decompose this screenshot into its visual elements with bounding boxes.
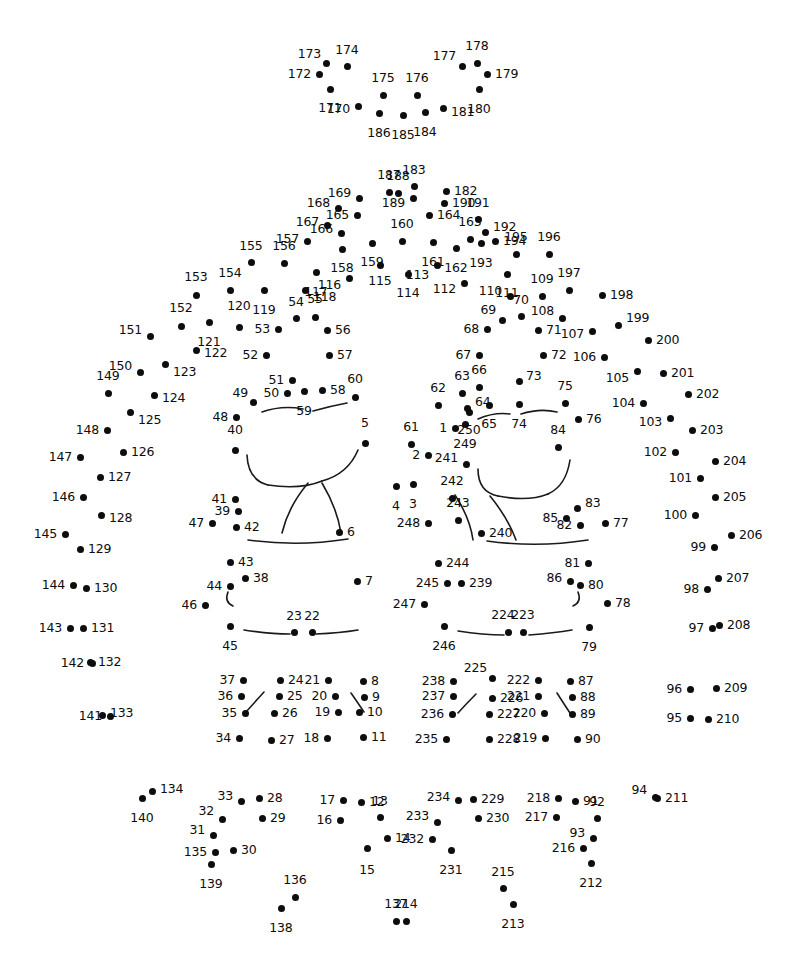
puzzle-dot[interactable] xyxy=(227,559,234,566)
puzzle-dot[interactable] xyxy=(687,715,694,722)
puzzle-dot[interactable] xyxy=(441,200,448,207)
puzzle-dot[interactable] xyxy=(70,582,77,589)
puzzle-dot[interactable] xyxy=(425,520,432,527)
puzzle-dot[interactable] xyxy=(346,275,353,282)
puzzle-dot[interactable] xyxy=(444,580,451,587)
puzzle-dot[interactable] xyxy=(98,512,105,519)
puzzle-dot[interactable] xyxy=(313,269,320,276)
puzzle-dot[interactable] xyxy=(459,63,466,70)
puzzle-dot[interactable] xyxy=(692,512,699,519)
puzzle-dot[interactable] xyxy=(238,693,245,700)
puzzle-dot[interactable] xyxy=(77,546,84,553)
puzzle-dot[interactable] xyxy=(336,529,343,536)
puzzle-dot[interactable] xyxy=(127,409,134,416)
puzzle-dot[interactable] xyxy=(440,105,447,112)
puzzle-dot[interactable] xyxy=(634,368,641,375)
puzzle-dot[interactable] xyxy=(476,86,483,93)
puzzle-dot[interactable] xyxy=(410,195,417,202)
puzzle-dot[interactable] xyxy=(535,693,542,700)
puzzle-dot[interactable] xyxy=(425,452,432,459)
puzzle-dot[interactable] xyxy=(289,377,296,384)
puzzle-dot[interactable] xyxy=(325,677,332,684)
puzzle-dot[interactable] xyxy=(435,560,442,567)
puzzle-dot[interactable] xyxy=(430,239,437,246)
puzzle-dot[interactable] xyxy=(574,505,581,512)
puzzle-dot[interactable] xyxy=(448,847,455,854)
puzzle-dot[interactable] xyxy=(332,693,339,700)
puzzle-dot[interactable] xyxy=(450,693,457,700)
puzzle-dot[interactable] xyxy=(139,795,146,802)
puzzle-dot[interactable] xyxy=(687,686,694,693)
puzzle-dot[interactable] xyxy=(645,337,652,344)
puzzle-dot[interactable] xyxy=(640,400,647,407)
puzzle-dot[interactable] xyxy=(569,711,576,718)
puzzle-dot[interactable] xyxy=(705,716,712,723)
puzzle-dot[interactable] xyxy=(470,796,477,803)
puzzle-dot[interactable] xyxy=(301,388,308,395)
puzzle-dot[interactable] xyxy=(542,735,549,742)
puzzle-dot[interactable] xyxy=(364,845,371,852)
puzzle-dot[interactable] xyxy=(504,271,511,278)
puzzle-dot[interactable] xyxy=(604,600,611,607)
puzzle-dot[interactable] xyxy=(443,188,450,195)
puzzle-dot[interactable] xyxy=(210,832,217,839)
puzzle-dot[interactable] xyxy=(151,392,158,399)
puzzle-dot[interactable] xyxy=(715,575,722,582)
puzzle-dot[interactable] xyxy=(555,795,562,802)
puzzle-dot[interactable] xyxy=(80,625,87,632)
puzzle-dot[interactable] xyxy=(601,354,608,361)
puzzle-dot[interactable] xyxy=(362,440,369,447)
puzzle-dot[interactable] xyxy=(482,229,489,236)
puzzle-dot[interactable] xyxy=(463,461,470,468)
puzzle-dot[interactable] xyxy=(660,370,667,377)
puzzle-dot[interactable] xyxy=(261,287,268,294)
puzzle-dot[interactable] xyxy=(62,531,69,538)
puzzle-dot[interactable] xyxy=(499,317,506,324)
puzzle-dot[interactable] xyxy=(441,623,448,630)
puzzle-dot[interactable] xyxy=(476,352,483,359)
puzzle-dot[interactable] xyxy=(219,816,226,823)
puzzle-dot[interactable] xyxy=(227,287,234,294)
puzzle-dot[interactable] xyxy=(458,580,465,587)
puzzle-dot[interactable] xyxy=(712,458,719,465)
puzzle-dot[interactable] xyxy=(235,508,242,515)
puzzle-dot[interactable] xyxy=(450,678,457,685)
puzzle-dot[interactable] xyxy=(414,92,421,99)
puzzle-dot[interactable] xyxy=(422,109,429,116)
puzzle-dot[interactable] xyxy=(672,449,679,456)
puzzle-dot[interactable] xyxy=(461,280,468,287)
puzzle-dot[interactable] xyxy=(712,494,719,501)
puzzle-dot[interactable] xyxy=(354,578,361,585)
puzzle-dot[interactable] xyxy=(120,449,127,456)
puzzle-dot[interactable] xyxy=(516,378,523,385)
puzzle-dot[interactable] xyxy=(478,530,485,537)
puzzle-dot[interactable] xyxy=(227,583,234,590)
puzzle-dot[interactable] xyxy=(281,260,288,267)
puzzle-dot[interactable] xyxy=(709,625,716,632)
puzzle-dot[interactable] xyxy=(149,788,156,795)
puzzle-dot[interactable] xyxy=(685,391,692,398)
puzzle-dot[interactable] xyxy=(316,71,323,78)
puzzle-dot[interactable] xyxy=(162,361,169,368)
puzzle-dot[interactable] xyxy=(193,347,200,354)
puzzle-dot[interactable] xyxy=(580,845,587,852)
puzzle-dot[interactable] xyxy=(516,401,523,408)
puzzle-dot[interactable] xyxy=(352,394,359,401)
puzzle-dot[interactable] xyxy=(137,369,144,376)
puzzle-dot[interactable] xyxy=(486,711,493,718)
puzzle-dot[interactable] xyxy=(478,240,485,247)
puzzle-dot[interactable] xyxy=(304,238,311,245)
puzzle-dot[interactable] xyxy=(489,675,496,682)
puzzle-dot[interactable] xyxy=(716,622,723,629)
puzzle-dot[interactable] xyxy=(713,685,720,692)
puzzle-dot[interactable] xyxy=(355,103,362,110)
puzzle-dot[interactable] xyxy=(411,183,418,190)
puzzle-dot[interactable] xyxy=(105,390,112,397)
puzzle-dot[interactable] xyxy=(535,677,542,684)
puzzle-dot[interactable] xyxy=(242,710,249,717)
puzzle-dot[interactable] xyxy=(562,400,569,407)
puzzle-dot[interactable] xyxy=(602,520,609,527)
puzzle-dot[interactable] xyxy=(667,415,674,422)
puzzle-dot[interactable] xyxy=(711,544,718,551)
puzzle-dot[interactable] xyxy=(77,454,84,461)
